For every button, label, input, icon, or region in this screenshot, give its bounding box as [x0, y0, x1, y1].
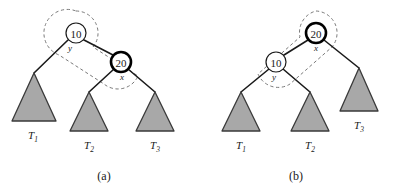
node-a-20-value: 20: [116, 57, 128, 69]
node-a-10-value: 10: [71, 28, 83, 40]
node-b-10-value: 10: [271, 57, 283, 69]
node-b-10-tag: y: [271, 72, 276, 82]
panel-b-caption: (b): [289, 169, 303, 183]
node-a-10-tag: y: [67, 43, 72, 53]
node-b-20-value: 20: [311, 28, 323, 40]
tree-rotation-figure: T1T2T310y20x(a)T1T2T320x10y(b): [0, 0, 395, 193]
panel-a-caption: (a): [97, 169, 110, 183]
node-b-20-tag: x: [313, 43, 318, 53]
figure-canvas: T1T2T310y20x(a)T1T2T320x10y(b): [0, 0, 395, 193]
node-a-20-tag: x: [119, 72, 124, 82]
figure-background: [0, 0, 395, 193]
